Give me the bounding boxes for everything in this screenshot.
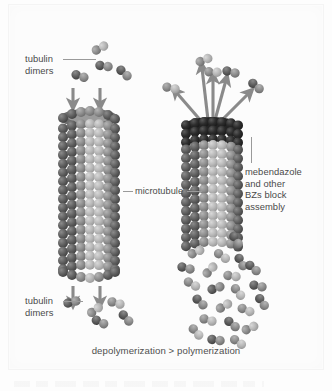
tubulin-subunit	[85, 154, 95, 164]
tubulin-subunit	[58, 212, 68, 222]
tubulin-subunit	[217, 220, 227, 230]
tubulin-subunit	[67, 165, 77, 175]
tubulin-subunit	[181, 233, 191, 243]
tubulin-subunit	[94, 137, 104, 147]
polymerization-arrows-left	[73, 88, 100, 104]
tubulin-dimer	[114, 64, 133, 83]
tubulin-dimer	[206, 281, 226, 295]
tubulin-dimer	[223, 270, 242, 282]
tubulin-dimer	[70, 69, 90, 83]
microtubule-left-body	[58, 119, 120, 275]
tubulin-subunit	[67, 253, 77, 263]
tubulin-subunit	[94, 172, 104, 182]
tubulin-dimer	[253, 292, 271, 312]
blocked-tubulin-subunit	[208, 126, 218, 136]
tubulin-dimer	[204, 67, 222, 78]
tubulin-subunit	[85, 172, 95, 182]
tubulin-subunit	[217, 193, 227, 203]
tubulin-subunit	[67, 209, 77, 219]
tubulin-dimer	[90, 40, 110, 57]
tubulin-subunit	[67, 156, 77, 166]
tubulin-subunit	[199, 202, 209, 212]
tubulin-subunit	[58, 124, 68, 134]
tubulin-subunit	[181, 153, 191, 163]
tubulin-subunit	[67, 182, 77, 192]
tubulin-subunit	[208, 175, 218, 185]
blocked-tubulin-subunit	[181, 120, 191, 130]
tubulin-subunit	[208, 210, 218, 220]
tubulin-subunit	[199, 175, 209, 185]
tubulin-subunit	[67, 191, 77, 201]
tubulin-subunit	[190, 177, 200, 187]
tubulin-subunit	[199, 184, 209, 194]
tubulin-subunit	[58, 168, 68, 178]
tubulin-subunit	[58, 159, 68, 169]
blocked-tubulin-subunit	[199, 126, 209, 136]
tubulin-subunit	[217, 167, 227, 177]
tubulin-subunit	[58, 229, 68, 239]
tubulin-subunit	[85, 233, 95, 243]
tubulin-subunit	[76, 181, 86, 191]
tubulin-dimer	[214, 298, 234, 315]
tubulin-subunit	[208, 149, 218, 159]
tubulin-subunit	[76, 260, 86, 270]
tubulin-subunit	[190, 150, 200, 160]
tubulin-subunit	[208, 202, 218, 212]
tubulin-subunit	[208, 166, 218, 176]
tubulin-subunit	[94, 251, 104, 261]
tubulin-subunit	[199, 193, 209, 203]
blocked-tubulin-subunit	[190, 127, 200, 137]
tubulin-subunit	[94, 260, 104, 270]
tubulin-subunit	[76, 163, 86, 173]
tubulin-subunit	[94, 146, 104, 156]
tubulin-dimer	[117, 308, 136, 327]
tubulin-subunit	[190, 159, 200, 169]
tubulin-subunit	[94, 163, 104, 173]
tubulin-subunit	[199, 237, 209, 247]
tubulin-dimers-left-top	[70, 40, 134, 83]
tubulin-subunit	[58, 185, 68, 195]
tubulin-dimer	[212, 247, 232, 265]
microtubule-left	[58, 106, 120, 283]
tubulin-subunit	[76, 242, 86, 252]
tubulin-subunit	[181, 206, 191, 216]
tubulin-subunit	[85, 189, 95, 199]
tubulin-subunit	[199, 219, 209, 229]
tubulin-subunit	[94, 181, 104, 191]
tubulin-subunit	[58, 220, 68, 230]
tubulin-subunit	[67, 129, 77, 139]
tubulin-dimer	[201, 260, 220, 279]
tubulin-subunit	[217, 158, 227, 168]
tubulin-dimer	[243, 259, 263, 278]
tubulin-dimer	[106, 296, 126, 310]
page-text-remnant	[14, 381, 264, 387]
tubulin-subunit	[181, 171, 191, 181]
tubulin-dimer	[221, 65, 240, 78]
tubulin-subunit	[85, 163, 95, 173]
leader-line-mebendazole	[251, 137, 252, 163]
tubulin-subunit	[67, 121, 77, 131]
tubulin-subunit	[76, 225, 86, 235]
tubulin-subunit	[85, 119, 95, 129]
tubulin-subunit	[85, 145, 95, 155]
tubulin-dimer	[222, 315, 242, 334]
tubulin-subunit	[67, 138, 77, 148]
tubulin-subunit	[58, 132, 68, 142]
tubulin-subunit	[208, 158, 218, 168]
tubulin-subunit	[85, 225, 95, 235]
tubulin-subunit	[67, 235, 77, 245]
tubulin-subunit	[181, 224, 191, 234]
tubulin-subunit	[217, 202, 227, 212]
tubulin-subunit	[190, 203, 200, 213]
tubulin-subunit	[67, 226, 77, 236]
tubulin-subunit	[85, 198, 95, 208]
tubulin-subunit	[58, 176, 68, 186]
figure-caption: depolymerization > polymerization	[0, 345, 332, 356]
tubulin-dimer	[95, 60, 114, 72]
tubulin-subunit	[76, 128, 86, 138]
tubulin-subunit	[208, 228, 218, 238]
tubulin-subunit	[76, 172, 86, 182]
tubulin-subunit	[94, 234, 104, 244]
tubulin-subunit	[67, 200, 77, 210]
tubulin-subunit	[94, 199, 104, 209]
